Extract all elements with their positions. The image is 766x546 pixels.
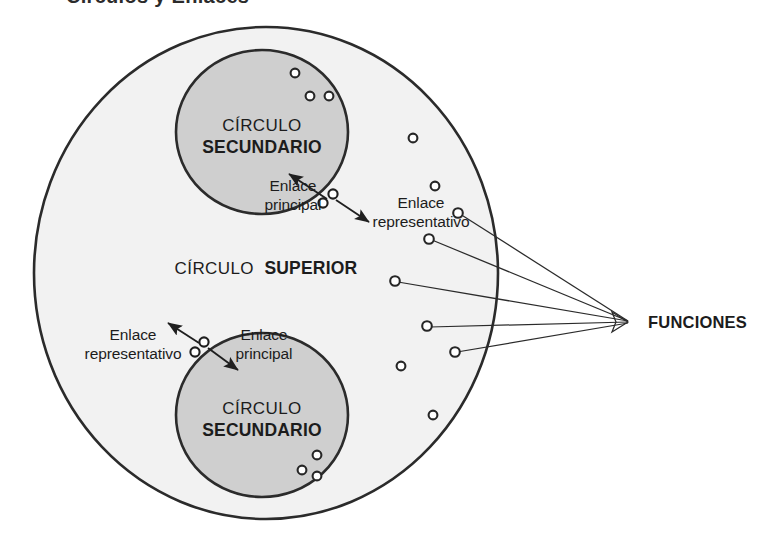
node-dot	[431, 182, 440, 191]
label-circulo-superior: CÍRCULO SUPERIOR	[175, 258, 358, 278]
enlace-principal-node-lower	[199, 337, 208, 346]
node-dot	[325, 92, 334, 101]
label-enlace-representativo-upper-line2: representativo	[373, 213, 470, 230]
label-circulo-superior-bold: SUPERIOR	[264, 258, 357, 278]
node-dot	[429, 411, 438, 420]
label-enlace-principal-upper-line1: Enlace	[270, 177, 317, 194]
circles-and-links-diagram: CÍRCULO SECUNDARIO CÍRCULO SECUNDARIO CÍ…	[0, 0, 766, 546]
node-dot	[397, 362, 406, 371]
label-circulo-secundario-lower-regular: CÍRCULO	[222, 399, 301, 418]
node-dot	[306, 92, 315, 101]
label-enlace-principal-lower-line2: principal	[236, 345, 293, 362]
label-enlace-principal-lower-line1: Enlace	[241, 326, 288, 343]
enlace-principal-node-lower-b	[190, 347, 199, 356]
diagram-canvas: Círculos y Enlaces	[0, 0, 766, 546]
label-enlace-principal-upper-line2: principal	[265, 196, 322, 213]
node-dot	[313, 451, 322, 460]
node-dot	[313, 472, 322, 481]
label-enlace-representativo-lower-line2: representativo	[85, 345, 182, 362]
node-dot	[298, 466, 307, 475]
node-dot	[409, 134, 418, 143]
node-dot	[390, 276, 400, 286]
node-dot	[291, 69, 300, 78]
label-circulo-secundario-upper-bold: SECUNDARIO	[202, 137, 322, 157]
label-enlace-representativo-upper-line1: Enlace	[398, 194, 445, 211]
node-dot	[450, 347, 460, 357]
label-circulo-secundario-lower-bold: SECUNDARIO	[202, 420, 322, 440]
label-funciones: FUNCIONES	[648, 313, 747, 331]
label-circulo-superior-regular: CÍRCULO	[175, 259, 254, 278]
enlace-representativo-node-upper	[328, 189, 337, 198]
node-dot	[424, 234, 434, 244]
label-enlace-representativo-lower-line1: Enlace	[110, 326, 157, 343]
node-dot	[422, 321, 432, 331]
label-circulo-secundario-upper-regular: CÍRCULO	[222, 116, 301, 135]
